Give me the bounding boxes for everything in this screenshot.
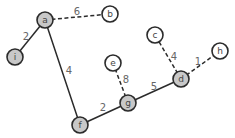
node-f: f (72, 117, 88, 133)
node-g: g (120, 95, 136, 111)
node-label: a (42, 15, 48, 25)
node-label: i (14, 52, 17, 62)
edge-weight-a-b: 6 (74, 6, 80, 17)
edge-weight-a-f: 4 (66, 65, 72, 76)
node-e: e (105, 55, 121, 71)
edge-weight-g-d: 5 (151, 81, 157, 92)
edge-weight-f-g: 2 (100, 102, 106, 113)
edge-weight-g-e: 8 (123, 74, 129, 85)
node-d: d (173, 71, 189, 87)
node-b: b (102, 6, 118, 22)
edge-weight-a-i: 2 (23, 31, 29, 42)
node-label: d (178, 74, 184, 84)
node-c: c (147, 27, 163, 43)
edge-weight-d-h: 1 (195, 56, 201, 67)
edge-line (45, 20, 80, 125)
node-i: i (7, 49, 23, 65)
edge-a-f (45, 20, 80, 125)
node-h: h (212, 43, 228, 59)
node-label: c (153, 30, 158, 40)
edge-weight-d-c: 4 (171, 51, 177, 62)
node-a: a (37, 12, 53, 28)
node-label: h (217, 46, 223, 56)
node-label: g (125, 98, 131, 108)
node-label: e (110, 58, 116, 68)
weighted-graph-diagram: 62425841 abichdegf (0, 0, 235, 138)
node-label: b (107, 9, 113, 19)
